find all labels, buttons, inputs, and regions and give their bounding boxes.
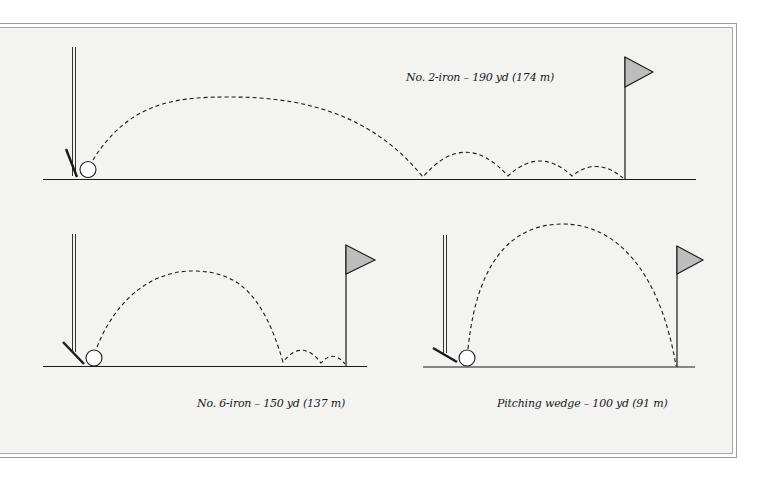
ball-trajectory xyxy=(468,224,676,366)
golf-ball-icon xyxy=(459,350,475,366)
caption-pitching-wedge: Pitching wedge – 100 yd (91 m) xyxy=(497,397,668,410)
ball-trajectory xyxy=(97,271,345,364)
club-shaft-icon xyxy=(73,234,76,352)
golf-ball-icon xyxy=(80,162,96,178)
flag-icon xyxy=(625,57,653,87)
caption-six-iron: No. 6-iron – 150 yd (137 m) xyxy=(197,397,345,410)
club-shaft-icon xyxy=(73,47,76,176)
club-shaft-icon xyxy=(444,235,447,353)
panel-two-iron xyxy=(43,47,696,180)
club-head-icon xyxy=(63,342,84,364)
ball-trajectory xyxy=(93,97,623,178)
club-head-icon xyxy=(433,348,457,362)
flag-icon xyxy=(677,246,703,274)
panel-pitching-wedge xyxy=(423,224,703,367)
panel-six-iron xyxy=(43,234,375,367)
flag-icon xyxy=(346,245,375,274)
golf-ball-icon xyxy=(86,350,102,366)
caption-two-iron: No. 2-iron – 190 yd (174 m) xyxy=(406,71,554,84)
